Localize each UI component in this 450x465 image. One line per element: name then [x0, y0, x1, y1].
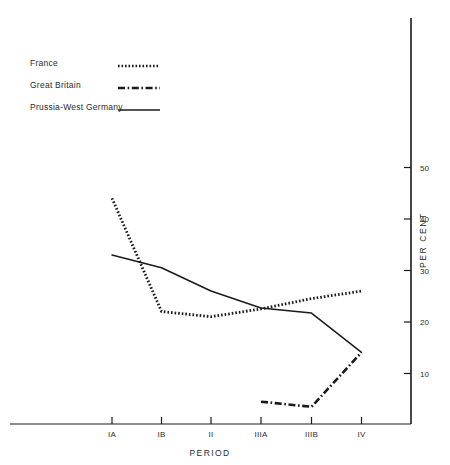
y-tick-label-50: 50 — [420, 163, 429, 172]
chart-figure: France Great Britain Prussia-West German… — [0, 0, 450, 465]
series-line-great-britain — [261, 352, 362, 407]
y-axis-title: PER CENT — [418, 212, 428, 268]
y-tick-label-20: 20 — [420, 318, 429, 327]
x-tick-label-ib: IB — [157, 430, 165, 439]
y-tick-label-10: 10 — [420, 369, 429, 378]
plot-area — [0, 0, 450, 465]
x-axis-title: PERIOD — [0, 448, 420, 458]
series-line-france — [112, 198, 362, 317]
y-axis-ticks — [404, 168, 411, 374]
x-axis-ticks — [112, 417, 362, 424]
x-tick-label-ia: IA — [108, 430, 116, 439]
x-tick-label-iiia: IIIA — [254, 430, 267, 439]
x-tick-label-iiib: IIIB — [305, 430, 318, 439]
x-tick-label-iv: IV — [357, 430, 365, 439]
x-tick-label-ii: II — [208, 430, 213, 439]
series-line-prussia-west-germany — [112, 255, 362, 352]
